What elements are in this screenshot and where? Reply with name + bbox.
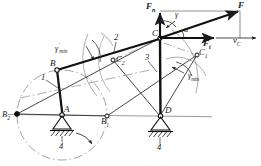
label-angle-alpha: α	[184, 26, 188, 34]
label-point-C2: C2	[116, 55, 125, 66]
label-gamma-min: γmin	[188, 72, 199, 82]
label-point-D: D	[165, 106, 172, 115]
label-point-B: B	[50, 59, 56, 68]
label-force-resultant: F	[238, 1, 244, 10]
link-1-leader	[46, 80, 58, 88]
label-point-C: C	[152, 29, 158, 38]
joint-B2	[15, 112, 20, 117]
force-resultant-vector	[160, 12, 238, 39]
label-force-normal: Fn	[146, 2, 155, 13]
arc-locus-c2-inner	[98, 36, 110, 92]
gamma-min-prime-leader	[86, 46, 94, 60]
label-link-1: 1	[41, 73, 45, 82]
label-point-C1: C1	[199, 48, 208, 59]
joint-B	[55, 68, 59, 72]
fixed-pivot-D	[148, 114, 173, 137]
label-link-2: 2	[114, 33, 118, 42]
rotation-direction-arrow	[76, 133, 92, 144]
diagram-canvas: Fn F Ft vC γ α C B A D B1 B2 C1 C2 1	[0, 0, 261, 166]
link-2-leader	[114, 42, 116, 52]
label-link-4-right: 4	[157, 143, 161, 152]
label-point-B2: B2	[2, 110, 10, 121]
mechanism-drawing	[0, 0, 261, 166]
gamma-min-prime-arc-outer	[101, 33, 113, 46]
arc-locus-c1	[172, 30, 198, 93]
label-point-B1: B1	[101, 117, 109, 128]
coupler-line-b2-c	[17, 38, 160, 114]
label-link-3: 3	[145, 53, 149, 62]
fixed-pivot-A	[50, 113, 74, 136]
label-velocity-c: vC	[233, 36, 241, 47]
label-point-A: A	[64, 105, 70, 114]
label-link-4-left: 4	[59, 142, 63, 151]
link-3-rocker	[160, 39, 161, 116]
joint-C2	[111, 58, 115, 62]
label-gamma-min-prime: γ′min	[55, 43, 68, 55]
label-angle-gamma: γ	[175, 11, 178, 19]
